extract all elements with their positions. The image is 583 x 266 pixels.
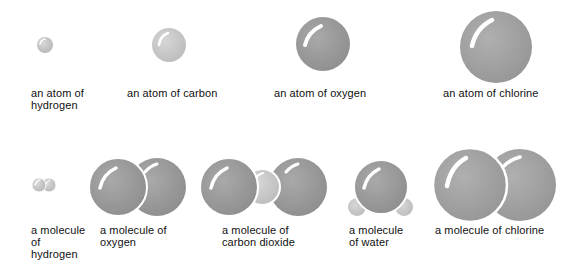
oxygen-atom (296, 17, 350, 71)
label-carbon-atom: an atom of carbon (127, 87, 217, 99)
label-chlorine-molecule: a molecule of chlorine (435, 224, 544, 236)
label-oxygen-molecule: a molecule of oxygen (100, 224, 167, 248)
label-chlorine-atom: an atom of chlorine (443, 87, 538, 99)
hydrogen-atom (37, 37, 53, 53)
chlorine-molecule (433, 148, 556, 222)
hydrogen-molecule (32, 178, 56, 192)
carbon-dioxide-molecule (200, 158, 327, 216)
chlorine-atom (460, 11, 532, 83)
oxygen-molecule (89, 158, 186, 216)
carbon-atom (152, 28, 186, 62)
label-oxygen-atom: an atom of oxygen (274, 87, 366, 99)
label-hydrogen-atom: an atom of hydrogen (31, 87, 84, 111)
label-water-molecule: a molecule of water (349, 224, 403, 248)
water-molecule (348, 160, 413, 216)
label-carbon-dioxide-molecule: a molecule of carbon dioxide (222, 224, 295, 248)
label-hydrogen-molecule: a molecule of hydrogen (31, 224, 85, 260)
